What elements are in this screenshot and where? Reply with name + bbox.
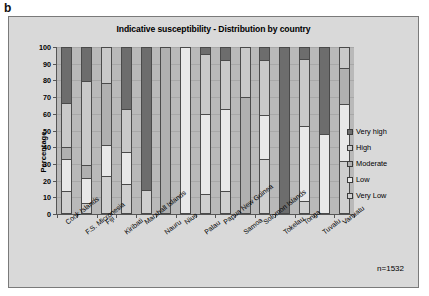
- x-axis-label: Kiribati: [123, 217, 144, 236]
- legend-swatch-icon: [347, 193, 353, 199]
- x-axis-label: Nauru: [163, 218, 182, 235]
- stacked-bar[interactable]: [141, 47, 152, 214]
- bar-slot: [235, 47, 255, 214]
- bar-segment[interactable]: [62, 147, 71, 159]
- bar-segment[interactable]: [62, 48, 71, 103]
- stacked-bar[interactable]: [160, 47, 171, 214]
- y-tick-label: 100: [39, 43, 51, 52]
- bar-segment[interactable]: [221, 191, 230, 213]
- bar-segment[interactable]: [62, 191, 71, 213]
- x-axis-labels: Cook IslandsF.S. MicronesiaFijiKiribatiM…: [56, 217, 356, 279]
- bar-segment[interactable]: [340, 68, 349, 104]
- x-axis-label: Palau: [203, 219, 221, 236]
- legend-item[interactable]: Low: [347, 175, 409, 184]
- chart-legend: Very highHighModerateLowVery Low: [347, 127, 409, 207]
- x-axis-label: Samoa: [242, 216, 264, 235]
- bar-segment[interactable]: [62, 103, 71, 147]
- legend-item[interactable]: Very high: [347, 127, 409, 136]
- stacked-bar[interactable]: [319, 47, 330, 214]
- legend-label: Very Low: [356, 191, 386, 200]
- x-axis-label: Tokelau: [282, 215, 305, 235]
- bar-slot: [97, 47, 117, 214]
- y-tick-label: 60: [43, 109, 51, 118]
- bar-segment[interactable]: [102, 145, 111, 176]
- bar-segment[interactable]: [122, 184, 131, 213]
- legend-swatch-icon: [347, 161, 353, 167]
- y-tick-label: 30: [43, 159, 51, 168]
- legend-swatch-icon: [347, 145, 353, 151]
- bar-segment[interactable]: [300, 201, 309, 213]
- bar-segment[interactable]: [340, 48, 349, 68]
- y-tick-label: 50: [43, 126, 51, 135]
- bars-layer: [57, 47, 354, 214]
- bar-segment[interactable]: [241, 48, 250, 97]
- y-tick-label: 20: [43, 176, 51, 185]
- y-tick-label: 10: [43, 193, 51, 202]
- bar-slot: [57, 47, 77, 214]
- bar-slot: [116, 47, 136, 214]
- bar-segment[interactable]: [221, 60, 230, 109]
- legend-label: Very high: [356, 127, 387, 136]
- bar-segment[interactable]: [201, 114, 210, 194]
- stacked-bar[interactable]: [240, 47, 251, 214]
- y-tick-label: 0: [47, 210, 51, 219]
- bar-segment[interactable]: [280, 48, 289, 213]
- bar-slot: [136, 47, 156, 214]
- sample-size-note: n=1532: [377, 264, 404, 273]
- bar-segment[interactable]: [122, 152, 131, 184]
- plot-area: 0102030405060708090100: [56, 47, 354, 215]
- x-axis-label: Tuvalu: [321, 217, 342, 235]
- bar-segment[interactable]: [300, 59, 309, 127]
- bar-segment[interactable]: [142, 48, 151, 190]
- bar-segment[interactable]: [201, 194, 210, 213]
- bar-segment[interactable]: [82, 165, 91, 178]
- bar-segment[interactable]: [102, 176, 111, 213]
- figure-frame: Indicative susceptibility - Distribution…: [8, 16, 419, 288]
- bar-segment[interactable]: [221, 48, 230, 60]
- bar-segment[interactable]: [82, 81, 91, 165]
- bar-segment[interactable]: [102, 48, 111, 83]
- bar-segment[interactable]: [260, 48, 269, 60]
- stacked-bar[interactable]: [81, 47, 92, 214]
- legend-swatch-icon: [347, 129, 353, 135]
- stacked-bar[interactable]: [61, 47, 72, 214]
- bar-slot: [156, 47, 176, 214]
- chart-title: Indicative susceptibility - Distribution…: [9, 24, 418, 34]
- legend-item[interactable]: Moderate: [347, 159, 409, 168]
- bar-segment[interactable]: [82, 48, 91, 81]
- bar-segment[interactable]: [161, 48, 170, 213]
- panel-label: b: [4, 1, 11, 15]
- bar-segment[interactable]: [300, 48, 309, 59]
- legend-item[interactable]: High: [347, 143, 409, 152]
- bar-segment[interactable]: [122, 48, 131, 109]
- bar-slot: [275, 47, 295, 214]
- stacked-bar[interactable]: [220, 47, 231, 214]
- bar-segment[interactable]: [241, 97, 250, 213]
- bar-segment[interactable]: [142, 190, 151, 213]
- legend-label: Low: [356, 175, 370, 184]
- y-tick-label: 90: [43, 59, 51, 68]
- bar-segment[interactable]: [62, 159, 71, 191]
- bar-segment[interactable]: [320, 134, 329, 213]
- bar-slot: [77, 47, 97, 214]
- stacked-bar[interactable]: [121, 47, 132, 214]
- bar-slot: [176, 47, 196, 214]
- legend-swatch-icon: [347, 177, 353, 183]
- bar-slot: [215, 47, 235, 214]
- bar-slot: [196, 47, 216, 214]
- stacked-bar[interactable]: [200, 47, 211, 214]
- bar-segment[interactable]: [221, 109, 230, 191]
- y-tick-label: 40: [43, 143, 51, 152]
- bar-segment[interactable]: [320, 48, 329, 134]
- stacked-bar[interactable]: [101, 47, 112, 214]
- legend-item[interactable]: Very Low: [347, 191, 409, 200]
- bar-segment[interactable]: [260, 115, 269, 159]
- bar-segment[interactable]: [260, 60, 269, 115]
- legend-label: Moderate: [356, 159, 387, 168]
- bar-segment[interactable]: [201, 54, 210, 114]
- stacked-bar[interactable]: [279, 47, 290, 214]
- bar-segment[interactable]: [122, 109, 131, 152]
- bar-segment[interactable]: [102, 83, 111, 145]
- y-tick-label: 80: [43, 76, 51, 85]
- y-tick-label: 70: [43, 93, 51, 102]
